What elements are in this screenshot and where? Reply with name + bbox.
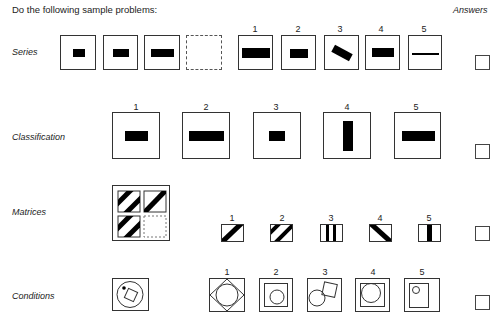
bar-figure	[73, 49, 85, 57]
conditions-option-1[interactable]	[209, 278, 245, 312]
row-label-conditions: Conditions	[12, 291, 55, 301]
bar-figure	[125, 131, 148, 141]
matrices-option-5[interactable]	[418, 224, 441, 242]
tilted-bar-figure	[331, 45, 352, 61]
classification-option-number-1: 1	[126, 102, 146, 112]
instructions-title: Do the following sample problems:	[12, 4, 157, 15]
conditions-option-number-4: 4	[363, 267, 383, 277]
series-option-2[interactable]	[281, 35, 316, 70]
small-circle-in-rectangle-figure	[404, 278, 440, 312]
matrix-stimulus	[112, 185, 170, 241]
classification-option-number-2: 2	[196, 102, 216, 112]
conditions-stimulus	[112, 278, 149, 311]
matrices-option-number-1: 1	[222, 213, 242, 223]
series-stimulus-2	[103, 35, 138, 70]
overlapping-circle-square-figure	[307, 278, 342, 312]
conditions-option-4[interactable]	[355, 278, 390, 312]
bar-figure	[189, 131, 224, 141]
line-figure	[412, 53, 439, 55]
row-label-classification: Classification	[12, 132, 65, 142]
matrices-option-number-2: 2	[272, 213, 292, 223]
matrices-option-4[interactable]	[369, 224, 392, 242]
answers-heading: Answers	[453, 5, 488, 15]
series-option-4[interactable]	[365, 35, 400, 70]
classification-option-number-4: 4	[337, 102, 357, 112]
circle-dot-square-figure	[112, 278, 149, 311]
series-blank-box	[186, 35, 222, 70]
vertical-bar-figure	[343, 121, 353, 151]
series-stimulus-1	[60, 35, 96, 70]
bar-figure	[113, 49, 129, 57]
single-diagonal-stripe-figure	[221, 224, 244, 242]
classification-answer-box[interactable]	[475, 144, 490, 159]
classification-option-5[interactable]	[394, 112, 441, 159]
circle-in-diamond-figure	[209, 278, 245, 312]
bar-figure	[402, 131, 435, 141]
conditions-option-3[interactable]	[307, 278, 342, 312]
matrices-option-number-3: 3	[321, 213, 341, 223]
double-vertical-stripe-figure	[320, 224, 343, 242]
matrix-grid-figure	[113, 186, 171, 242]
bar-figure	[290, 49, 308, 58]
classification-option-number-5: 5	[406, 102, 426, 112]
conditions-option-number-2: 2	[266, 267, 286, 277]
matrices-option-2[interactable]	[270, 224, 293, 242]
single-vertical-stripe-figure	[418, 224, 441, 242]
matrices-option-1[interactable]	[221, 224, 244, 242]
series-option-number-5: 5	[414, 24, 434, 34]
row-label-matrices: Matrices	[12, 207, 46, 217]
series-option-number-2: 2	[288, 24, 308, 34]
series-answer-box[interactable]	[475, 55, 490, 70]
series-stimulus-3	[144, 35, 180, 70]
conditions-option-number-3: 3	[315, 267, 335, 277]
matrices-option-3[interactable]	[320, 224, 343, 242]
conditions-option-number-1: 1	[217, 267, 237, 277]
circle-in-square-figure	[259, 278, 293, 312]
series-option-3[interactable]	[324, 35, 359, 70]
circle-overlapping-square-figure	[355, 278, 390, 312]
row-label-series: Series	[12, 47, 38, 57]
series-option-5[interactable]	[408, 35, 442, 70]
series-option-1[interactable]	[238, 35, 273, 70]
conditions-option-number-5: 5	[412, 267, 432, 277]
bar-figure	[242, 48, 270, 58]
classification-option-1[interactable]	[112, 112, 160, 159]
classification-option-number-3: 3	[266, 102, 286, 112]
series-option-number-3: 3	[330, 24, 350, 34]
matrices-option-number-5: 5	[419, 213, 439, 223]
classification-option-4[interactable]	[323, 112, 371, 159]
series-option-number-1: 1	[245, 24, 265, 34]
classification-option-2[interactable]	[182, 112, 230, 159]
bar-figure	[151, 49, 174, 57]
classification-option-3[interactable]	[253, 112, 301, 159]
bar-figure	[372, 48, 394, 57]
matrices-answer-box[interactable]	[475, 226, 490, 241]
matrices-option-number-4: 4	[370, 213, 390, 223]
conditions-answer-box[interactable]	[475, 295, 490, 310]
series-option-number-4: 4	[371, 24, 391, 34]
bar-figure	[269, 131, 285, 141]
conditions-option-5[interactable]	[404, 278, 440, 312]
conditions-option-2[interactable]	[259, 278, 293, 312]
reverse-diagonal-stripe-figure	[369, 224, 392, 242]
double-diagonal-stripe-figure	[270, 224, 293, 242]
